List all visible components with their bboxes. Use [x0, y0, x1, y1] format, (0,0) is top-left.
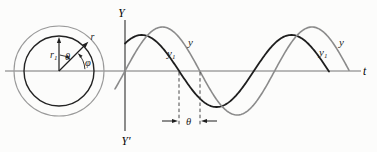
figure-geometry — [5, 20, 361, 131]
wave-label-y1-2: y1 — [318, 46, 327, 60]
wave-label-y1-0: y1 — [166, 47, 175, 61]
angle-arc-phi-head — [78, 54, 82, 58]
phase-theta-label: θ — [186, 116, 191, 127]
radius-label-r: r — [91, 31, 95, 42]
figure-stage: Y Y′ t r1rθφy1yy1yθ — [0, 0, 377, 152]
wave-label-y-3: y — [338, 36, 344, 48]
y-axis-bottom-label: Y′ — [122, 135, 131, 147]
angle-label-theta: θ — [65, 51, 70, 62]
phase-angle-figure: Y Y′ t r1rθφy1yy1yθ — [0, 0, 377, 152]
phase-arrow-right-head — [201, 119, 207, 123]
radius-vector-r1-head — [57, 37, 61, 43]
radius-label-r1: r1 — [50, 49, 57, 62]
figure-labels: Y Y′ t r1rθφy1yy1yθ — [50, 7, 367, 147]
angle-label-phi: φ — [85, 57, 91, 68]
t-axis-label: t — [363, 65, 367, 77]
wave-label-y-1: y — [187, 36, 193, 48]
phase-arrow-left-head — [172, 119, 178, 123]
y-axis-top-label: Y — [118, 7, 126, 19]
